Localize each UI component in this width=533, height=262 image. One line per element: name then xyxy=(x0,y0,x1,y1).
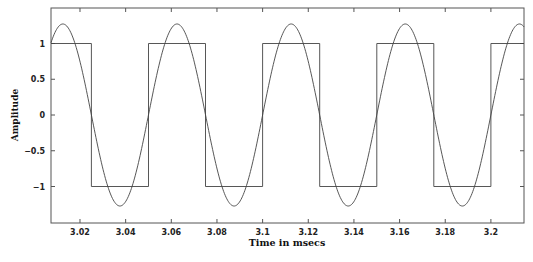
sine-wave-series xyxy=(51,24,524,206)
square-wave-series xyxy=(51,44,524,187)
y-axis-label: Amplitude xyxy=(10,89,20,143)
y-tick-label: −1 xyxy=(33,183,46,192)
x-tick-label: 3.04 xyxy=(116,228,136,237)
y-tick-label: 0.5 xyxy=(31,75,46,84)
x-axis-label: Time in msecs xyxy=(249,237,325,248)
x-tick-label: 3.08 xyxy=(207,228,227,237)
y-tick-label: −0.5 xyxy=(24,147,45,156)
plot-area: 3.023.043.063.083.13.123.143.163.183.2 1… xyxy=(24,8,524,237)
y-tick-label: 0 xyxy=(39,111,45,120)
y-tick-label: 1 xyxy=(39,40,45,49)
x-tick-label: 3.06 xyxy=(161,228,181,237)
x-tick-label: 3.1 xyxy=(256,228,271,237)
x-tick-label: 3.18 xyxy=(435,228,455,237)
x-tick-label: 3.16 xyxy=(390,228,410,237)
x-tick-label: 3.2 xyxy=(484,228,498,237)
x-tick-label: 3.14 xyxy=(344,228,364,237)
plot-frame xyxy=(51,8,524,223)
x-tick-label: 3.12 xyxy=(298,228,318,237)
x-tick-label: 3.02 xyxy=(70,228,90,237)
chart: 3.023.043.063.083.13.123.143.163.183.2 1… xyxy=(0,0,533,262)
